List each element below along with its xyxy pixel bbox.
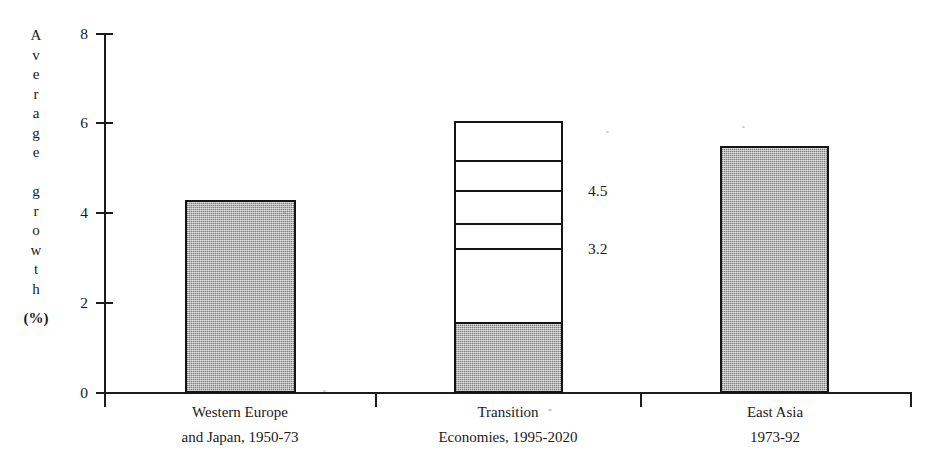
category-label-line1: East Asia (685, 400, 865, 425)
y-tick-label-8: 8 (48, 26, 88, 42)
y-axis-title-char: e (14, 143, 58, 163)
bar-east-asia[interactable] (720, 146, 829, 394)
scan-speckle (548, 409, 552, 411)
scan-speckle (283, 211, 286, 214)
bar-segment-line-1 (454, 248, 563, 250)
y-axis-title-space (14, 163, 58, 183)
bar-transition-economies-filled-base[interactable] (454, 322, 563, 393)
y-tick-6 (96, 122, 113, 124)
scan-speckle (742, 126, 745, 128)
y-tick-4 (96, 212, 113, 214)
y-axis-title-char: t (14, 260, 58, 280)
scan-speckle (323, 390, 326, 392)
y-axis-units: (%) (14, 309, 58, 329)
x-tick-divider-2 (640, 393, 642, 407)
x-tick-end (910, 393, 912, 407)
growth-bar-chart: A v e r a g e g r o w t h (%) 0 2 4 6 8 … (0, 0, 931, 466)
x-tick-origin (104, 393, 106, 407)
category-label-western-europe-japan: Western Europe and Japan, 1950-73 (150, 400, 330, 450)
y-axis-title-char: r (14, 85, 58, 105)
y-tick-label-0: 0 (48, 385, 88, 401)
category-label-transition-economies: Transition Economies, 1995-2020 (418, 400, 598, 450)
bar-segment-line-2 (454, 223, 563, 225)
x-tick-divider-1 (375, 393, 377, 407)
category-label-line1: Western Europe (150, 400, 330, 425)
annotation-4-5: 4.5 (588, 183, 607, 199)
y-axis-title-char: v (14, 46, 58, 66)
y-tick-label-2: 2 (48, 295, 88, 311)
bar-segment-line-3 (454, 190, 563, 192)
category-label-line2: and Japan, 1950-73 (150, 425, 330, 450)
scan-speckle (606, 131, 609, 133)
annotation-3-2: 3.2 (588, 241, 607, 257)
y-tick-8 (96, 33, 113, 35)
y-axis-title: A v e r a g e g r o w t h (%) (14, 26, 58, 329)
category-label-line2: Economies, 1995-2020 (418, 425, 598, 450)
y-tick-label-4: 4 (48, 205, 88, 221)
category-label-line1: Transition (418, 400, 598, 425)
y-axis-title-char: o (14, 221, 58, 241)
y-axis-title-char: g (14, 182, 58, 202)
bar-western-europe-japan[interactable] (185, 200, 296, 394)
y-axis-title-char: e (14, 65, 58, 85)
bar-segment-line-4 (454, 160, 563, 162)
category-label-east-asia: East Asia 1973-92 (685, 400, 865, 450)
y-tick-2 (96, 302, 113, 304)
y-tick-label-6: 6 (48, 115, 88, 131)
y-axis-title-char: w (14, 241, 58, 261)
category-label-line2: 1973-92 (685, 425, 865, 450)
